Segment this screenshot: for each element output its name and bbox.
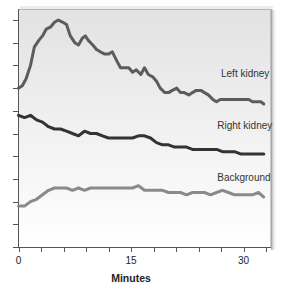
x-tick-label: 15: [125, 255, 137, 266]
x-tick-label: 30: [238, 255, 250, 266]
series-label-background: Background: [217, 172, 270, 183]
x-axis-ticks: [20, 248, 267, 253]
x-axis-title: Minutes: [111, 272, 151, 284]
x-tick-label: 0: [16, 255, 22, 266]
chart: 01530 Minutes Left kidneyRight kidneyBac…: [0, 0, 285, 290]
x-axis-tick-labels: 01530: [16, 255, 250, 266]
series-label-left-kidney: Left kidney: [221, 68, 269, 79]
y-axis-ticks: [13, 21, 19, 248]
series-label-right-kidney: Right kidney: [217, 120, 272, 131]
